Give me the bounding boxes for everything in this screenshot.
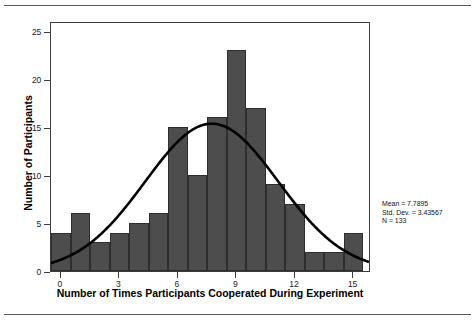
histogram-figure: Number of Participants 0510152025 036912… <box>0 0 475 328</box>
statistics-annotation: Mean = 7.7895 Std. Dev. = 3.43567 N = 13… <box>382 200 443 226</box>
x-tick <box>294 272 295 278</box>
y-axis: Number of Participants 0510152025 <box>0 0 50 295</box>
plot-area <box>50 22 370 272</box>
x-tick <box>60 272 61 278</box>
x-tick <box>235 272 236 278</box>
y-tick-label: 10 <box>32 171 41 181</box>
x-axis-title: Number of Times Participants Cooperated … <box>32 287 388 300</box>
y-tick-label: 15 <box>32 123 41 133</box>
stat-mean: Mean = 7.7895 <box>382 200 443 209</box>
x-tick <box>118 272 119 278</box>
x-tick <box>177 272 178 278</box>
bottom-divider-rule <box>4 314 471 315</box>
y-tick-label: 20 <box>32 75 41 85</box>
stat-std-dev: Std. Dev. = 3.43567 <box>382 209 443 218</box>
x-tick <box>352 272 353 278</box>
normal-distribution-curve <box>51 23 369 271</box>
y-tick-label: 5 <box>36 219 41 229</box>
top-divider-rule <box>4 5 471 6</box>
y-tick-label: 0 <box>36 267 41 277</box>
stat-n: N = 133 <box>382 217 443 226</box>
y-tick-label: 25 <box>32 27 41 37</box>
